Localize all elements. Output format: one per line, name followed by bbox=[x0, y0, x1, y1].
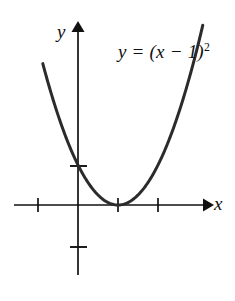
equation-text: y = (x − 1) bbox=[118, 41, 204, 62]
y-axis-label: y bbox=[57, 22, 65, 41]
y-axis-arrowhead bbox=[72, 21, 85, 32]
equation-exponent: 2 bbox=[204, 41, 210, 54]
x-axis-arrowhead bbox=[203, 199, 214, 212]
x-axis-label: x bbox=[214, 194, 222, 213]
parabola-figure: y = (x − 1)2 y x bbox=[0, 0, 235, 301]
equation-annotation: y = (x − 1)2 bbox=[118, 42, 210, 61]
